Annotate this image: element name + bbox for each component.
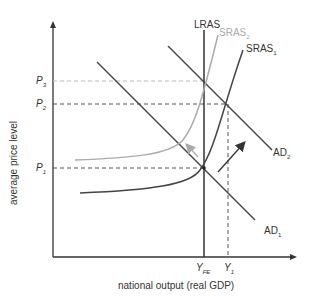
y1-label: Y1	[224, 263, 234, 275]
p2-label: P2	[36, 99, 46, 111]
ad-as-diagram: LRAS SRAS2 SRAS1 AD2 AD1 P3 P2 P1 YFE Y1…	[0, 0, 309, 301]
ad1-label: AD1	[264, 226, 281, 238]
yfe-label: YFE	[196, 263, 210, 275]
equilibrium-point	[202, 166, 206, 170]
sras-shift-arrow	[187, 145, 198, 157]
x-axis-label: national output (real GDP)	[118, 280, 234, 291]
y-axis	[50, 21, 56, 257]
ad2-label: AD2	[273, 148, 290, 160]
ad2-curve	[168, 46, 272, 150]
x-axis	[53, 254, 297, 260]
guide-lines	[53, 81, 228, 257]
ad-shift-arrow	[218, 143, 244, 172]
sras2-curve	[75, 35, 218, 160]
p1-label: P1	[36, 163, 46, 175]
lras-label: LRAS	[194, 20, 220, 30]
y-axis-label: average price level	[8, 121, 19, 205]
sras2-label: SRAS2	[219, 28, 250, 40]
sras1-label: SRAS1	[246, 44, 277, 56]
p3-label: P3	[36, 76, 46, 88]
